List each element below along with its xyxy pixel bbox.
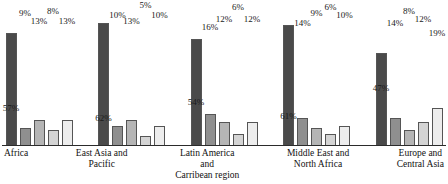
category-label-line: Europe and — [397, 148, 444, 159]
bar-value-label: 19% — [422, 28, 448, 38]
category-label: Africa — [4, 148, 28, 181]
bar-group: 57%9%13%8%13% — [4, 0, 74, 146]
plot-area: 57%9%13%8%13%62%10%13%5%10%54%16%12%6%12… — [0, 0, 448, 146]
bar-slot: 19% — [430, 0, 444, 146]
bar-slot: 12% — [416, 0, 430, 146]
bar-slot: 10% — [338, 0, 352, 146]
bar-slot: 6% — [324, 0, 338, 146]
bar[interactable] — [247, 122, 258, 146]
bar-group: 47%14%8%12%19% — [374, 0, 444, 146]
bar[interactable] — [390, 118, 401, 146]
bar-slot: 13% — [60, 0, 74, 146]
bar[interactable] — [6, 33, 17, 146]
bar[interactable] — [283, 25, 294, 146]
bar[interactable] — [98, 23, 109, 146]
category-label-row: AfricaEast Asia andPacificLatin Americaa… — [0, 148, 448, 181]
bar[interactable] — [339, 126, 350, 146]
bar-slot: 14% — [296, 0, 310, 146]
bar-slot: 62% — [97, 0, 111, 146]
bar-value-label: 12% — [237, 14, 267, 24]
bar-slot: 12% — [217, 0, 231, 146]
category-label-line: and — [175, 159, 239, 170]
bar[interactable] — [297, 118, 308, 146]
category-label-line: Carribean region — [175, 170, 239, 181]
category-label-line: North Africa — [287, 159, 349, 170]
category-label-line: Africa — [4, 148, 28, 159]
category-label: Europe andCentral Asia — [397, 148, 444, 181]
bar-group: 54%16%12%6%12% — [189, 0, 259, 146]
bar[interactable] — [34, 120, 45, 146]
bar[interactable] — [205, 114, 216, 146]
category-label: East Asia andPacific — [76, 148, 128, 181]
category-label: Middle East andNorth Africa — [287, 148, 349, 181]
bar-slot: 13% — [32, 0, 46, 146]
category-label-line: Middle East and — [287, 148, 349, 159]
x-axis-baseline — [2, 145, 446, 146]
bar[interactable] — [154, 126, 165, 146]
bar-chart: 57%9%13%8%13%62%10%13%5%10%54%16%12%6%12… — [0, 0, 448, 184]
bar-slot: 12% — [245, 0, 259, 146]
bar-slot: 14% — [388, 0, 402, 146]
bar-slot: 10% — [153, 0, 167, 146]
bar[interactable] — [311, 128, 322, 146]
bar-group: 62%10%13%5%10% — [97, 0, 167, 146]
bar[interactable] — [418, 122, 429, 146]
bar-value-label: 13% — [52, 16, 82, 26]
bar[interactable] — [404, 130, 415, 146]
bar[interactable] — [62, 120, 73, 146]
category-label-line: Central Asia — [397, 159, 444, 170]
bar[interactable] — [219, 122, 230, 146]
bar-value-label: 10% — [145, 10, 175, 20]
bar[interactable] — [48, 130, 59, 146]
bar-value-label: 10% — [330, 10, 360, 20]
bar[interactable] — [191, 39, 202, 146]
category-label-line: Pacific — [76, 159, 128, 170]
bar-group: 61%14%9%6%10% — [282, 0, 352, 146]
category-label-line: Latin America — [175, 148, 239, 159]
bar-slot: 9% — [310, 0, 324, 146]
category-label-line: East Asia and — [76, 148, 128, 159]
bar-slot: 5% — [139, 0, 153, 146]
bar[interactable] — [432, 108, 443, 146]
bar[interactable] — [126, 120, 137, 146]
bar[interactable] — [20, 128, 31, 146]
bar-slot: 13% — [125, 0, 139, 146]
bar-slot: 57% — [4, 0, 18, 146]
bar[interactable] — [112, 126, 123, 146]
bar[interactable] — [376, 53, 387, 146]
category-label: Latin AmericaandCarribean region — [175, 148, 239, 181]
